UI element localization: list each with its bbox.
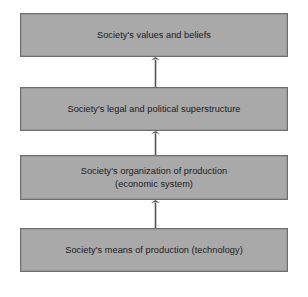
tier-box-values-beliefs: Society's values and beliefs — [20, 13, 288, 57]
up-arrow-icon — [149, 200, 162, 228]
tier-label-line: Society's means of production (technolog… — [65, 244, 243, 257]
up-arrow-icon — [149, 57, 162, 87]
tier-label-line: Society's values and beliefs — [97, 29, 211, 42]
tier-label-line: Society's legal and political superstruc… — [68, 103, 241, 116]
tier-box-organization-of-production: Society's organization of production (ec… — [20, 155, 288, 200]
tier-box-means-of-production: Society's means of production (technolog… — [20, 228, 288, 272]
tier-label-line-secondary: (economic system) — [115, 178, 193, 191]
diagram-canvas: Society's values and beliefs Society's l… — [0, 0, 308, 297]
tier-label-line: Society's organization of production — [81, 165, 228, 178]
up-arrow-icon — [149, 131, 162, 155]
tier-box-legal-political-superstructure: Society's legal and political superstruc… — [20, 87, 288, 131]
